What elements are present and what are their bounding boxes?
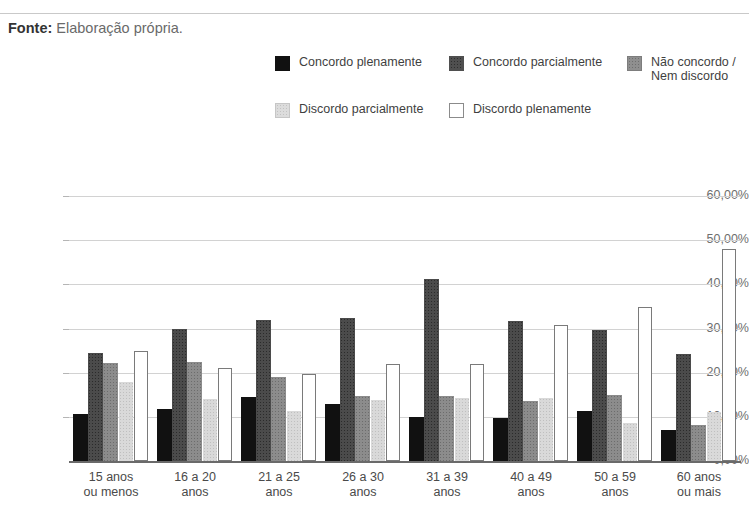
bar bbox=[577, 411, 592, 461]
x-axis-tick-label: 15 anosou menos bbox=[69, 470, 153, 500]
bar-group bbox=[321, 196, 405, 461]
x-axis-tick-label: 21 a 25anos bbox=[237, 470, 321, 500]
bar bbox=[371, 400, 386, 461]
x-axis-tick-label-line: ou mais bbox=[657, 485, 741, 500]
bar bbox=[241, 397, 256, 461]
bar-group bbox=[69, 196, 153, 461]
bar-group bbox=[237, 196, 321, 461]
bar bbox=[455, 398, 470, 461]
x-axis-tick-label-line: anos bbox=[153, 485, 237, 500]
plot-area bbox=[69, 196, 741, 461]
x-axis-tick-label: 26 a 30anos bbox=[321, 470, 405, 500]
bar bbox=[691, 425, 706, 461]
bar bbox=[661, 430, 676, 461]
bar bbox=[707, 412, 722, 461]
bar bbox=[539, 398, 554, 461]
bar bbox=[554, 325, 569, 461]
bar-group bbox=[489, 196, 573, 461]
bar bbox=[103, 363, 118, 461]
x-axis-tick-label: 31 a 39anos bbox=[405, 470, 489, 500]
bar bbox=[325, 404, 340, 461]
bar bbox=[271, 377, 286, 461]
x-axis-tick-label: 16 a 20anos bbox=[153, 470, 237, 500]
x-axis-tick-label-line: 31 a 39 bbox=[405, 470, 489, 485]
bar bbox=[676, 354, 691, 461]
bar bbox=[203, 399, 218, 461]
bar bbox=[607, 395, 622, 461]
bar bbox=[256, 320, 271, 461]
bar bbox=[187, 362, 202, 461]
bar bbox=[134, 351, 149, 461]
bar bbox=[523, 401, 538, 462]
x-axis-tick-label-line: anos bbox=[573, 485, 657, 500]
bar-group bbox=[405, 196, 489, 461]
x-axis-tick-label-line: 15 anos bbox=[69, 470, 153, 485]
bar bbox=[722, 249, 737, 461]
bar bbox=[73, 414, 88, 461]
bar bbox=[172, 329, 187, 462]
bar-group bbox=[153, 196, 237, 461]
bar bbox=[470, 364, 485, 461]
x-axis-tick-label-line: anos bbox=[321, 485, 405, 500]
x-axis-tick-label-line: 50 a 59 bbox=[573, 470, 657, 485]
grouped-bar-chart: 60,00%50,00%40,00%30,00%20,00%10,00%0,00… bbox=[0, 0, 749, 521]
x-axis-tick-label-line: 60 anos bbox=[657, 470, 741, 485]
x-axis-tick-label-line: anos bbox=[237, 485, 321, 500]
bar-group bbox=[657, 196, 741, 461]
x-axis-tick-label-line: 21 a 25 bbox=[237, 470, 321, 485]
x-axis-tick-label: 40 a 49anos bbox=[489, 470, 573, 500]
x-axis-tick-label-line: anos bbox=[405, 485, 489, 500]
bar bbox=[302, 374, 317, 461]
bar bbox=[157, 409, 172, 461]
bar bbox=[493, 418, 508, 461]
x-axis-tick-label: 60 anosou mais bbox=[657, 470, 741, 500]
x-axis-tick-label-line: anos bbox=[489, 485, 573, 500]
bar bbox=[623, 423, 638, 461]
bar bbox=[409, 417, 424, 461]
bar bbox=[355, 396, 370, 461]
bar bbox=[592, 330, 607, 461]
x-axis-tick-label: 50 a 59anos bbox=[573, 470, 657, 500]
x-axis-line bbox=[69, 461, 741, 463]
bar bbox=[386, 364, 401, 461]
x-axis-tick-label-line: 16 a 20 bbox=[153, 470, 237, 485]
x-axis-tick-label-line: ou menos bbox=[69, 485, 153, 500]
x-axis-tick-label-line: 40 a 49 bbox=[489, 470, 573, 485]
bar-group bbox=[573, 196, 657, 461]
bar bbox=[340, 318, 355, 461]
bar bbox=[218, 368, 233, 461]
bar bbox=[439, 396, 454, 461]
bar bbox=[508, 321, 523, 461]
bar bbox=[638, 307, 653, 461]
x-axis-tick-label-line: 26 a 30 bbox=[321, 470, 405, 485]
bar bbox=[88, 353, 103, 461]
bar bbox=[424, 279, 439, 461]
bar bbox=[287, 411, 302, 461]
bar bbox=[119, 382, 134, 461]
